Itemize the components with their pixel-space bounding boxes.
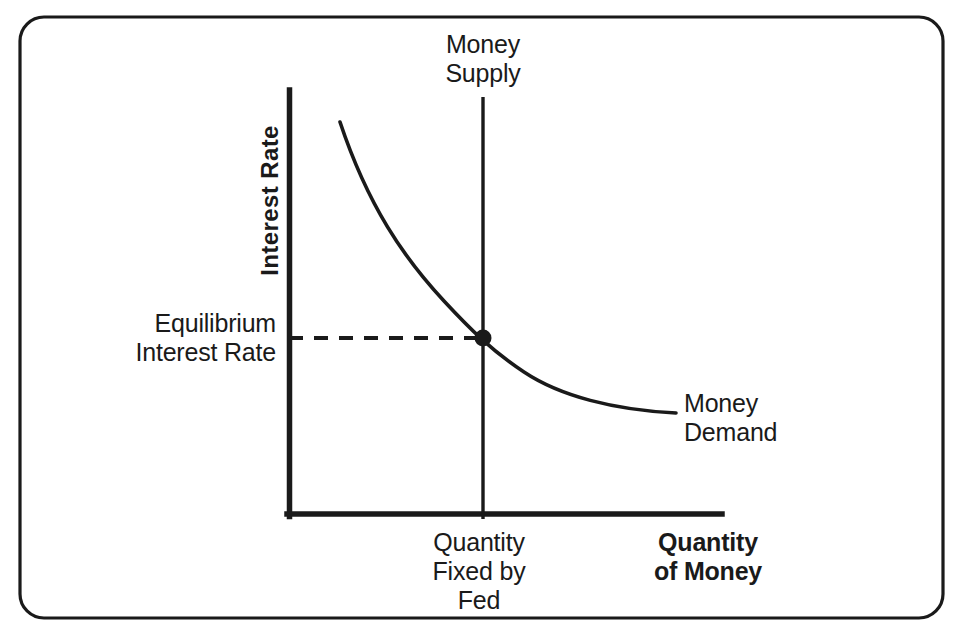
money-demand-curve: [340, 122, 676, 413]
quantity-fixed-by-fed-label: Quantity Fixed by Fed: [379, 528, 579, 615]
money-market-diagram: Money Supply Interest Rate Equilibrium I…: [0, 0, 958, 631]
equilibrium-point-marker: [475, 330, 492, 347]
money-supply-label: Money Supply: [383, 30, 583, 88]
x-axis-label: Quantity of Money: [613, 528, 803, 586]
money-demand-label: Money Demand: [684, 389, 874, 447]
equilibrium-interest-rate-label: Equilibrium Interest Rate: [78, 309, 276, 367]
y-axis-label: Interest Rate: [255, 101, 284, 301]
